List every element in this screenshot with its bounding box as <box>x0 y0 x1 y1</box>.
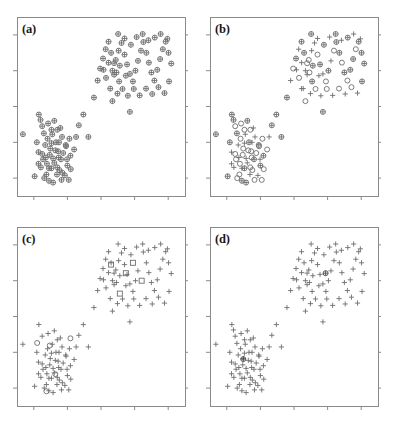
marker-circle <box>68 336 73 341</box>
marker-square <box>117 291 122 296</box>
marker-circle <box>324 86 329 91</box>
panel-d <box>204 221 384 412</box>
marker-circle <box>252 177 257 182</box>
panel-c <box>11 221 191 412</box>
marker-circle <box>233 124 238 129</box>
marker-circle <box>337 86 342 91</box>
marker-circle <box>315 52 320 57</box>
marker-circle <box>35 340 40 345</box>
marker-circle <box>331 48 336 53</box>
series-circle-plus <box>241 271 329 362</box>
marker-circle <box>44 389 49 394</box>
series-plus <box>213 241 367 395</box>
marker-circle <box>349 85 354 90</box>
marker-circle <box>291 66 296 71</box>
marker-circle <box>345 78 350 83</box>
marker-circle <box>339 60 344 65</box>
marker-circle <box>242 127 247 132</box>
series-circle <box>233 47 359 183</box>
plot-frame <box>211 228 379 407</box>
marker-circle <box>259 177 264 182</box>
series-circle-plus <box>20 31 174 185</box>
marker-circle <box>261 167 266 172</box>
series-plus <box>229 31 363 178</box>
marker-circle <box>239 121 244 126</box>
panel-label-c: (c) <box>22 232 35 247</box>
plot-frame <box>18 228 186 407</box>
panel-b <box>204 11 384 202</box>
series-plus <box>20 241 174 395</box>
marker-circle <box>254 151 259 156</box>
panel-label-a: (a) <box>22 22 36 37</box>
marker-square <box>139 278 144 283</box>
marker-circle <box>323 79 328 84</box>
marker-circle <box>303 99 308 104</box>
marker-circle <box>237 161 242 166</box>
marker-circle <box>313 86 318 91</box>
panel-label-b: (b) <box>215 22 230 37</box>
marker-circle <box>265 147 270 152</box>
marker-circle <box>297 75 302 80</box>
marker-circle <box>246 148 251 153</box>
series-square <box>109 260 145 296</box>
plot-frame <box>211 18 379 197</box>
marker-circle <box>53 372 58 377</box>
marker-circle <box>240 152 245 157</box>
marker-circle <box>47 343 52 348</box>
panel-label-d: (d) <box>215 232 230 247</box>
marker-square <box>130 260 135 265</box>
panel-a <box>11 11 191 202</box>
marker-circle <box>260 136 265 141</box>
marker-circle <box>241 146 246 151</box>
marker-circle <box>238 136 243 141</box>
marker-square <box>123 271 128 276</box>
scatter-plot-figure: (a)(b)(c)(d) <box>0 0 395 425</box>
marker-circle <box>353 47 358 52</box>
